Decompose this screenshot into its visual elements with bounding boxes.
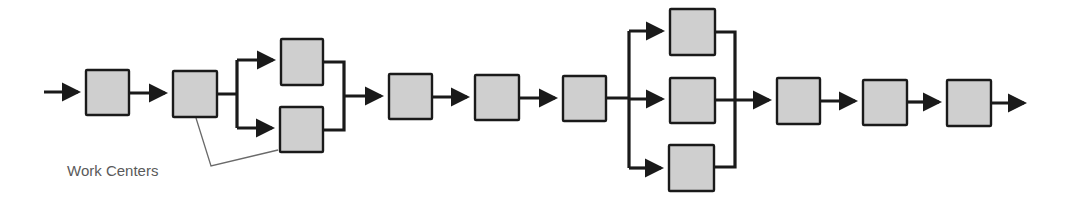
work-center-box-wc8: [777, 78, 820, 124]
work-center-box-wc7b: [670, 78, 715, 123]
work-center-box-wc4: [389, 74, 432, 119]
work-center-box-wc7a: [670, 9, 715, 55]
work-center-box-wc6: [563, 76, 606, 121]
merge-wc3: [323, 62, 344, 130]
split-wc2: [217, 60, 237, 128]
work-center-box-wc7c: [669, 145, 714, 191]
work-centers-label: Work Centers: [67, 162, 158, 179]
work-center-box-wc2: [173, 71, 217, 117]
work-center-flow-diagram: [0, 0, 1070, 207]
work-center-box-wc5: [475, 75, 519, 120]
merge-wc7: [714, 32, 735, 167]
split-wc6: [606, 31, 629, 168]
work-center-box-wc10: [947, 80, 991, 126]
work-center-box-wc9: [863, 80, 907, 125]
work-center-box-wc1: [86, 70, 129, 115]
work-center-box-wc3b: [280, 107, 323, 152]
work-center-box-wc3a: [281, 39, 323, 85]
